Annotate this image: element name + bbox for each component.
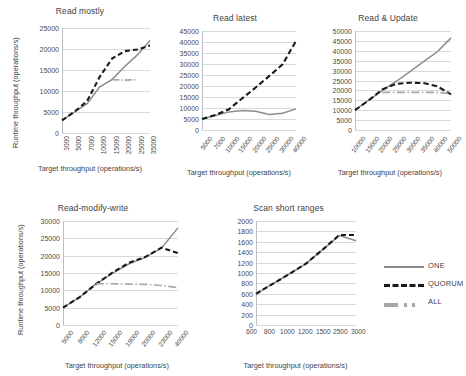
series-lines	[202, 31, 296, 130]
legend-swatch-dashed-icon	[384, 284, 424, 287]
legend-item-quorum[interactable]: QUORUM	[384, 276, 466, 294]
y-tick: 40000	[180, 39, 199, 46]
x-tick: 8000	[76, 329, 91, 345]
x-tick: 7000	[88, 136, 95, 151]
legend-label: ONE	[428, 261, 445, 270]
x-tick: 5000	[199, 135, 214, 151]
y-tick: 35000	[180, 50, 199, 57]
series-one-line	[63, 228, 178, 308]
x-tick: 3000	[63, 136, 70, 151]
chart-panel-read-modify-write: Read-modify-write Runtime throughput (op…	[8, 195, 208, 375]
plot-area: 2000 1800 1600 1400 1200 1000 800 600 40…	[256, 221, 356, 325]
legend-item-one[interactable]: ONE	[384, 258, 466, 276]
chart-panel-read-mostly: Read mostly Runtime throughput (operatio…	[0, 2, 160, 182]
y-tick: 15000	[41, 270, 60, 277]
chart-panel-read-and-update: Read & Update 50000 45000 40000 35000 30…	[310, 2, 466, 182]
y-tick: 1400	[237, 249, 253, 256]
y-tick: 800	[241, 280, 253, 287]
legend-label: ALL	[428, 297, 442, 306]
y-tick: 35000	[333, 57, 352, 64]
series-all-line	[96, 284, 178, 288]
x-tick: 600	[246, 328, 257, 335]
y-tick: 25000	[41, 235, 60, 242]
y-tick: 30000	[333, 67, 352, 74]
y-tick: 20000	[180, 83, 199, 90]
y-tick: 45000	[333, 37, 352, 44]
series-quorum-line	[355, 83, 451, 111]
x-axis-label: Target throughput (operations/s)	[26, 361, 208, 370]
chart-title: Scan short ranges	[206, 203, 371, 213]
legend-swatch-dashdot-icon	[384, 303, 424, 307]
x-axis-label: Target throughput (operations/s)	[210, 361, 381, 370]
y-tick: 5000	[43, 109, 59, 116]
y-tick: 2000	[237, 218, 253, 225]
legend-item-all[interactable]: ALL	[384, 294, 466, 312]
series-quorum-line	[256, 235, 356, 294]
y-tick: 5000	[336, 117, 352, 124]
chart-title: Read latest	[156, 13, 314, 23]
y-tick: 30000	[180, 61, 199, 68]
x-tick: 40000	[173, 329, 190, 348]
x-tick: 1200	[298, 328, 313, 335]
series-all-line	[382, 92, 451, 93]
y-tick: 10000	[180, 105, 199, 112]
y-tick: 1200	[237, 259, 253, 266]
x-tick: 10000	[100, 136, 107, 154]
x-tick: 800	[264, 328, 275, 335]
x-tick: 3000	[351, 328, 366, 335]
x-axis-label: Target throughput (operations/s)	[20, 164, 160, 173]
plot-area: 30000 25000 20000 15000 10000 5000 0	[63, 221, 178, 325]
chart-title: Read mostly	[0, 6, 160, 16]
series-lines	[355, 31, 451, 130]
x-axis-label: Target throughput (operations/s)	[314, 168, 466, 177]
x-tick: 25000	[138, 136, 145, 154]
x-tick: 15000	[107, 329, 124, 348]
y-tick: 20000	[41, 252, 60, 259]
series-one-line	[62, 41, 150, 121]
x-tick: 15000	[113, 136, 120, 154]
x-tick: 50000	[446, 135, 463, 154]
y-tick: 20000	[333, 87, 352, 94]
x-tick: 30000	[405, 135, 422, 154]
y-tick: 5000	[44, 304, 60, 311]
y-tick: 15000	[333, 97, 352, 104]
y-tick: 10000	[41, 287, 60, 294]
y-tick: 0	[55, 130, 59, 137]
y-tick: 5000	[183, 116, 199, 123]
chart-panel-read-latest: Read latest 45000 40000 35000 30000 2500…	[156, 2, 314, 182]
y-tick: 0	[195, 127, 199, 134]
x-tick: 2500	[333, 328, 348, 335]
legend-swatch-solid-icon	[384, 266, 424, 268]
plot-area: 25000 20000 15000 10000 5000 0	[62, 28, 150, 133]
legend-label: QUORUM	[428, 279, 463, 288]
y-tick: 1800	[237, 228, 253, 235]
legend: ONE QUORUM ALL	[384, 258, 466, 312]
x-tick: 1500	[316, 328, 331, 335]
y-tick: 40000	[333, 47, 352, 54]
y-tick: 10000	[333, 107, 352, 114]
y-tick: 25000	[333, 77, 352, 84]
y-tick: 400	[241, 301, 253, 308]
x-axis-label: Target throughput (operations/s)	[164, 168, 314, 177]
chart-title: Read & Update	[310, 13, 466, 23]
y-tick: 20000	[40, 46, 59, 53]
series-lines	[63, 221, 178, 325]
y-tick: 15000	[180, 94, 199, 101]
x-tick: 12000	[91, 329, 108, 348]
y-tick: 10000	[40, 88, 59, 95]
plot-area: 45000 40000 35000 30000 25000 20000 1500…	[202, 31, 296, 130]
y-tick: 600	[241, 290, 253, 297]
x-tick: 5000	[75, 136, 82, 151]
y-tick: 30000	[41, 218, 60, 225]
y-axis-label: Runtime throughput (operations/s)	[11, 37, 20, 148]
x-tick: 20000	[125, 136, 132, 154]
series-one-line	[202, 109, 296, 119]
chart-panel-scan-short-ranges: Scan short ranges 2000 1800 1600 1400 12…	[206, 195, 381, 375]
y-axis-label: Runtime throughput (operations/s)	[16, 224, 25, 335]
y-tick: 1600	[237, 238, 253, 245]
plot-area: 50000 45000 40000 35000 30000 25000 2000…	[355, 31, 451, 130]
y-tick: 1000	[237, 270, 253, 277]
chart-title: Read-modify-write	[8, 203, 178, 213]
x-tick: 23000	[156, 329, 173, 348]
x-tick: 20000	[140, 329, 157, 348]
